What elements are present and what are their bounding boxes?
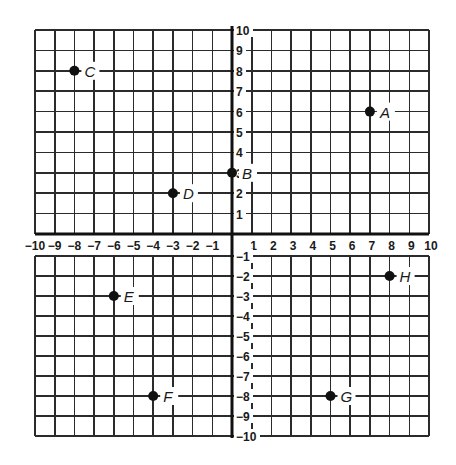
y-tick-label: 4 [236,146,243,160]
point-marker-icon [109,291,119,301]
point-label: E [124,288,135,305]
point-marker-icon [227,168,237,178]
y-tick-label: 5 [236,126,243,140]
y-tick-label: −5 [236,330,250,344]
point-marker-icon [168,188,178,198]
point-label: F [163,388,173,405]
x-tick-label: −6 [107,239,121,253]
y-tick-label: 2 [236,187,243,201]
x-tick-label: −5 [127,239,141,253]
y-tick-label: −9 [236,410,250,424]
x-tick-label: 8 [388,239,395,253]
x-tick-label: 9 [408,239,415,253]
point-marker-icon [365,107,375,117]
point-marker-icon [148,391,158,401]
y-tick-label: −2 [236,270,250,284]
x-tick-label: 7 [369,239,376,253]
x-tick-label: 5 [329,239,336,253]
point-label: A [379,104,390,121]
y-tick-label: −8 [236,390,250,404]
x-tick-label: −2 [186,239,200,253]
x-tick-label: −3 [166,239,180,253]
y-tick-label: −4 [236,310,250,324]
x-tick-label: 10 [424,239,438,253]
y-tick-label: −6 [236,350,250,364]
point-label: C [84,63,95,80]
x-tick-label: −8 [68,239,82,253]
x-tick-label: 6 [349,239,356,253]
y-tick-label: 1 [236,208,243,222]
y-tick-label: 8 [236,65,243,79]
x-tick-label: −9 [48,239,62,253]
y-tick-label: −7 [236,370,250,384]
point-marker-icon [326,391,336,401]
x-tick-label: −10 [25,239,46,253]
y-tick-label: −1 [236,250,250,264]
x-tick-label: 4 [309,239,316,253]
point-label: B [242,165,252,182]
y-tick-label: −3 [236,290,250,304]
x-tick-label: −7 [87,239,101,253]
point-label: D [183,185,194,202]
y-tick-label: 10 [236,24,250,38]
x-tick-label: 3 [290,239,297,253]
x-tick-label: −4 [146,239,160,253]
point-marker-icon [385,271,395,281]
x-tick-label: 2 [270,239,277,253]
y-tick-label: −10 [236,430,257,444]
y-tick-label: 6 [236,106,243,120]
x-tick-label: −1 [205,239,219,253]
y-tick-label: 9 [236,44,243,58]
point-label: G [341,388,353,405]
coordinate-plane: −10−9−8−7−6−5−4−3−2−112345678910 1098765… [0,0,456,465]
point-marker-icon [69,66,79,76]
point-label: H [400,268,411,285]
y-tick-label: 7 [236,85,243,99]
